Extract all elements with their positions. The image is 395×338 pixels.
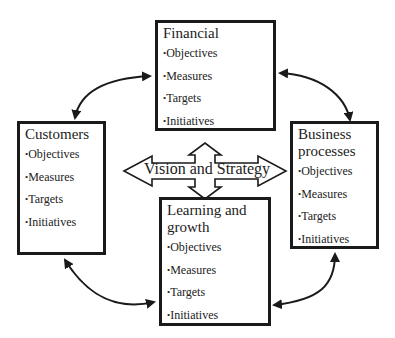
list-item: Targets xyxy=(25,193,103,205)
list-item: Objectives xyxy=(163,47,273,59)
perspective-title: Customers xyxy=(25,126,103,143)
list-item: Objectives xyxy=(25,148,103,160)
perspective-box-financial: Financial Objectives Measures Targets In… xyxy=(155,20,276,131)
list-item: Measures xyxy=(163,70,273,82)
perspective-title: Learning and growth xyxy=(167,202,262,236)
list-item: Measures xyxy=(167,264,268,276)
connector-customers-learning xyxy=(65,260,154,305)
list-item: Initiatives xyxy=(163,115,273,127)
perspective-box-learning-growth: Learning and growth Objectives Measures … xyxy=(159,197,271,326)
list-item: Initiatives xyxy=(25,216,103,228)
list-item: Targets xyxy=(298,210,376,222)
list-item: Initiatives xyxy=(298,233,376,245)
vision-strategy-label: Vision and Strategy xyxy=(137,160,277,178)
connector-financial-business xyxy=(280,73,350,120)
list-item: Objectives xyxy=(298,165,376,177)
perspective-title: Financial xyxy=(163,25,273,42)
list-item: Measures xyxy=(25,171,103,183)
perspective-box-customers: Customers Objectives Measures Targets In… xyxy=(17,121,106,255)
list-item: Measures xyxy=(298,188,376,200)
list-item: Targets xyxy=(163,92,273,104)
list-item: Targets xyxy=(167,286,268,298)
connector-learning-business xyxy=(274,254,335,305)
connector-customers-financial xyxy=(75,76,150,118)
list-item: Objectives xyxy=(167,241,268,253)
perspective-title: Business processes xyxy=(298,126,368,160)
perspective-box-business-processes: Business processes Objectives Measures T… xyxy=(290,121,379,249)
list-item: Initiatives xyxy=(167,309,268,321)
